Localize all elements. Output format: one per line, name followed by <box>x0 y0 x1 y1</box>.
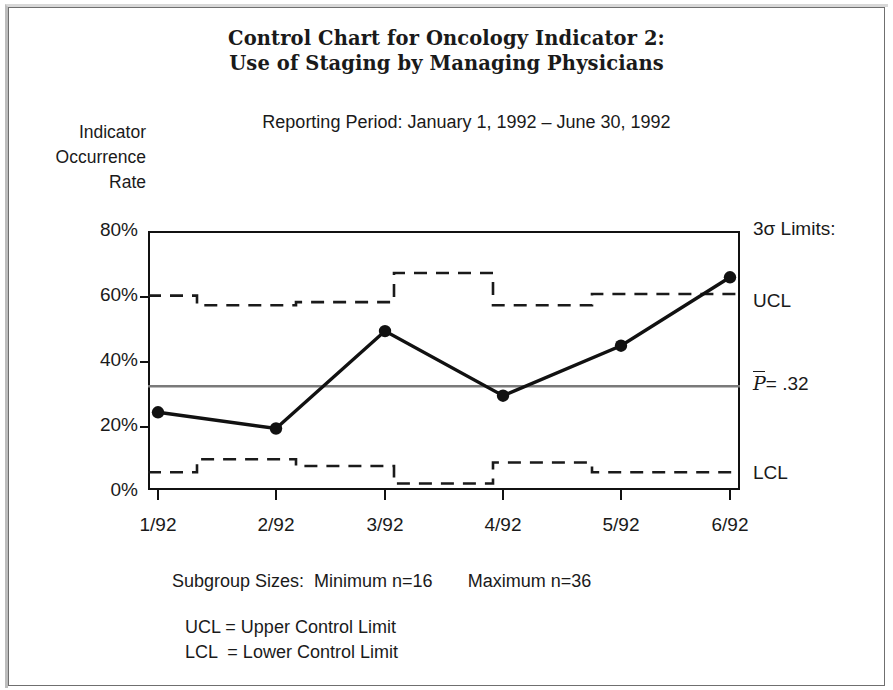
y-tick-label-0: 0% <box>58 479 138 501</box>
data-point-marker <box>270 422 282 434</box>
y-axis-title-line-1: Indicator <box>28 120 146 145</box>
x-tick-mark-5 <box>620 489 622 500</box>
y-axis-title: Indicator Occurrence Rate <box>28 120 146 195</box>
ucl-legend-note: UCL = Upper Control Limit <box>185 617 396 638</box>
y-tick-label-60: 60% <box>58 284 138 306</box>
pbar-label: P= .32 <box>753 372 809 395</box>
x-tick-mark-1 <box>157 489 159 500</box>
x-tick-label-3: 3/92 <box>340 514 430 536</box>
plot-area <box>148 231 740 490</box>
x-tick-label-1: 1/92 <box>113 514 203 536</box>
y-tick-label-80: 80% <box>58 219 138 241</box>
page-title-line-2: Use of Staging by Managing Physicians <box>0 51 893 76</box>
ucl-label: UCL <box>753 290 791 312</box>
data-series-line <box>158 277 730 428</box>
data-point-marker <box>379 325 391 337</box>
y-axis-title-line-2: Occurrence <box>28 145 146 170</box>
x-tick-label-4: 4/92 <box>458 514 548 536</box>
page-title-line-1: Control Chart for Oncology Indicator 2: <box>0 26 893 51</box>
x-tick-label-5: 5/92 <box>576 514 666 536</box>
data-point-marker <box>497 390 509 402</box>
data-point-marker <box>724 271 736 283</box>
subgroup-sizes-note: Subgroup Sizes: Minimum n=16 Maximum n=3… <box>172 571 591 592</box>
lcl-step-line <box>148 459 740 483</box>
control-chart-svg <box>148 231 740 490</box>
pbar-value: = .32 <box>766 373 809 394</box>
chart-page: Control Chart for Oncology Indicator 2: … <box>0 0 893 690</box>
lcl-label: LCL <box>753 462 788 484</box>
y-tick-label-40: 40% <box>58 349 138 371</box>
y-tick-label-20: 20% <box>58 414 138 436</box>
x-tick-label-6: 6/92 <box>685 514 775 536</box>
pbar-symbol: P <box>753 372 766 394</box>
sigma-limits-label: 3σ Limits: <box>753 218 835 240</box>
data-point-marker <box>615 340 627 352</box>
x-tick-mark-3 <box>384 489 386 500</box>
x-tick-mark-6 <box>729 489 731 500</box>
y-axis-title-line-3: Rate <box>28 170 146 195</box>
x-tick-mark-4 <box>502 489 504 500</box>
ucl-step-line <box>148 273 740 305</box>
x-tick-label-2: 2/92 <box>231 514 321 536</box>
x-tick-mark-2 <box>275 489 277 500</box>
lcl-legend-note: LCL = Lower Control Limit <box>185 642 398 663</box>
data-point-marker <box>152 406 164 418</box>
